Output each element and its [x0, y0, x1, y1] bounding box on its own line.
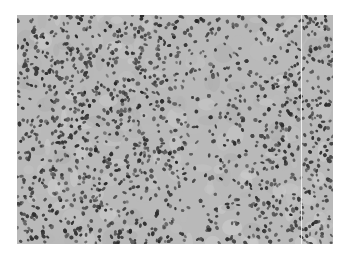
micrograph-image [17, 15, 333, 244]
cell-nuclei-layer [17, 15, 333, 244]
scan-artifact-line [301, 15, 302, 244]
